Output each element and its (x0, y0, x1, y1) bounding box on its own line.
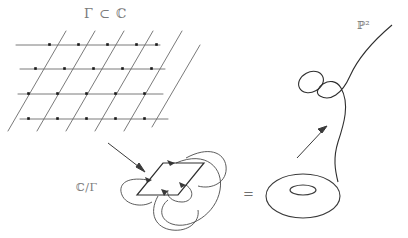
elliptic-curve-in-projective-plane (295, 25, 392, 182)
lattice-points (27, 43, 158, 120)
lattice-horizontal-lines (16, 45, 168, 119)
lattice-grid (8, 31, 200, 131)
curve-unbounded-branch (317, 25, 392, 182)
torus-inner-hole (290, 185, 316, 195)
equals-sign: = (243, 186, 254, 201)
lattice-diagonal-lines (8, 31, 200, 131)
arrow-torus-to-curve (297, 126, 327, 158)
arrow-lattice-to-quotient (108, 143, 145, 172)
torus (266, 174, 340, 218)
figure-canvas (0, 0, 408, 238)
curve-oval-component (295, 67, 327, 97)
lattice-label: Γ ⊂ ℂ (84, 6, 128, 21)
projective-plane-label: ℙ² (357, 19, 370, 32)
quotient-label: ℂ/Γ (76, 181, 98, 194)
fundamental-parallelogram (121, 152, 226, 231)
torus-outer-ellipse (266, 174, 340, 218)
